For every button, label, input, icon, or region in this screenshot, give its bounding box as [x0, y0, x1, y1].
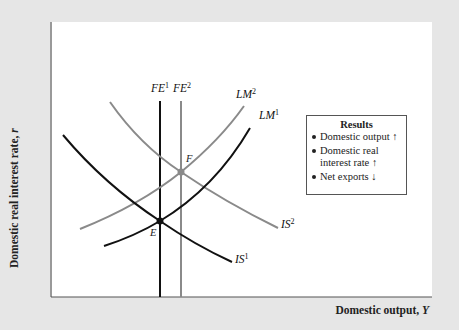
lm2-label: LM2	[236, 88, 256, 100]
lm1-label: LM1	[259, 109, 279, 121]
up-arrow-icon: ↑	[372, 157, 377, 168]
is1-label: IS1	[235, 253, 249, 265]
point-e-marker	[157, 218, 164, 225]
is2-label: IS2	[281, 218, 295, 230]
is2-curve	[110, 102, 278, 228]
lm2-curve	[80, 106, 244, 229]
results-box: Results Domestic output ↑ Domestic reali…	[306, 115, 407, 195]
point-f-marker	[178, 169, 185, 176]
fe1-label: FE1	[151, 82, 169, 94]
is1-curve	[63, 135, 232, 262]
result-interest-rate: Domestic realinterest rate ↑	[311, 145, 402, 169]
result-net-exports: Net exports ↓	[311, 171, 402, 183]
point-e-label: E	[150, 227, 156, 238]
lm1-curve	[104, 128, 250, 246]
result-domestic-output: Domestic output ↑	[311, 131, 402, 143]
point-f-label: F	[186, 153, 192, 164]
down-arrow-icon: ↓	[371, 171, 376, 182]
up-arrow-icon: ↑	[392, 131, 397, 142]
y-axis-label: Domestic real interest rate, r	[8, 128, 20, 268]
x-axis-label: Domestic output, Y	[335, 304, 429, 316]
results-title: Results	[311, 119, 402, 130]
fe2-label: FE2	[173, 82, 191, 94]
